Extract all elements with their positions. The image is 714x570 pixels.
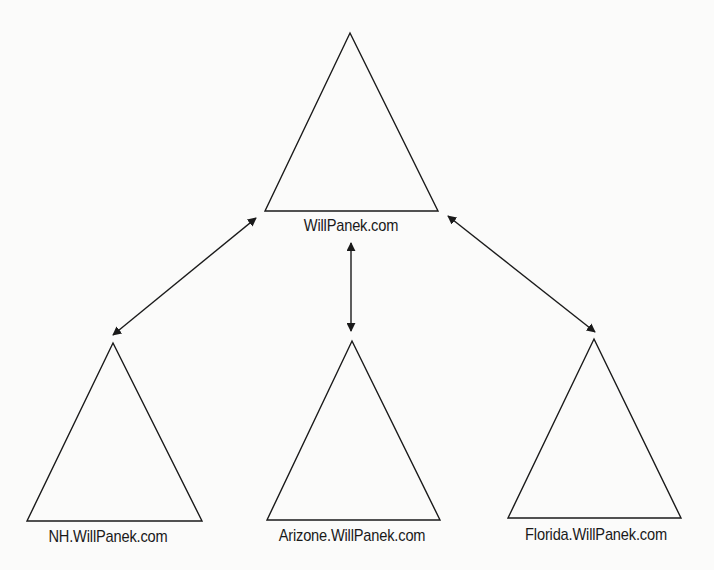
diagram-graphic [0, 0, 714, 570]
nh-domain-label: NH.WillPanek.com [48, 527, 167, 547]
arrow-root-to-florida [448, 216, 595, 332]
arizone-domain-triangle [267, 341, 440, 520]
root-domain-triangle [265, 33, 438, 211]
root-domain-label: WillPanek.com [304, 216, 398, 236]
florida-domain-triangle [508, 339, 681, 518]
arizone-domain-label: Arizone.WillPanek.com [279, 526, 426, 546]
diagram-canvas: WillPanek.com NH.WillPanek.com Arizone.W… [0, 0, 714, 570]
arrow-root-to-nh [113, 218, 256, 335]
florida-domain-label: Florida.WillPanek.com [525, 525, 667, 545]
nh-domain-triangle [27, 343, 202, 521]
